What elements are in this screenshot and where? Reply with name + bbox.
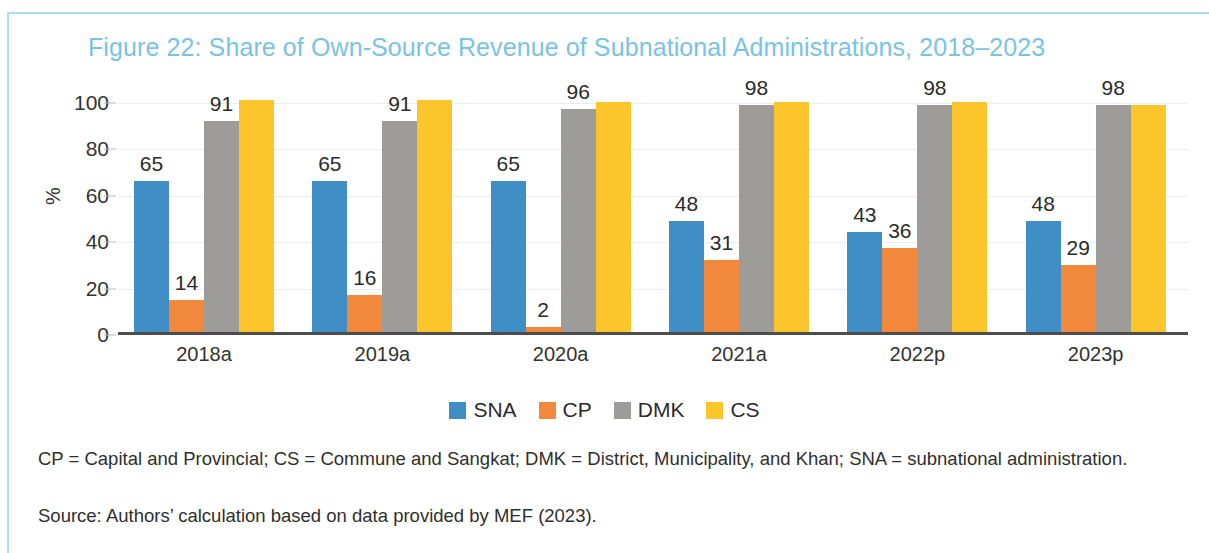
bar-group: 482998: [1026, 100, 1166, 332]
bar-cs-2022p: [952, 102, 987, 332]
bar-sna-2022p: 43: [847, 232, 882, 332]
x-axis-tick-label: 2018a: [114, 343, 294, 366]
bar-value-label: 2: [537, 298, 549, 322]
bar-dmk-2022p: 98: [917, 105, 952, 332]
bar-cp-2023p: 29: [1061, 265, 1096, 332]
y-axis-tick-label: 0: [49, 323, 109, 347]
bar-dmk-2018a: 91: [204, 121, 239, 332]
y-axis-tick-label: 40: [49, 230, 109, 254]
bar-value-label: 96: [566, 80, 589, 104]
figure-title: Figure 22: Share of Own-Source Revenue o…: [88, 33, 1045, 62]
bar-cp-2019a: 16: [347, 295, 382, 332]
y-axis-tick-label: 100: [49, 91, 109, 115]
bar-value-label: 43: [853, 203, 876, 227]
bar-chart: 0204060801006514912018a6516912019a652962…: [118, 100, 1188, 335]
bar-cp-2022p: 36: [882, 248, 917, 332]
y-axis-tick-mark: [104, 288, 116, 289]
bar-value-label: 91: [210, 92, 233, 116]
legend-label: CS: [730, 398, 759, 422]
bar-cs-2018a: [239, 100, 274, 332]
x-axis-line: [118, 332, 1188, 335]
legend-label: DMK: [638, 398, 685, 422]
y-axis-tick-mark: [104, 335, 116, 336]
bar-value-label: 65: [318, 152, 341, 176]
bar-cs-2021a: [774, 102, 809, 332]
legend-item-cs[interactable]: CS: [706, 398, 759, 422]
bar-value-label: 36: [888, 219, 911, 243]
legend-item-sna[interactable]: SNA: [449, 398, 516, 422]
bar-value-label: 98: [745, 76, 768, 100]
bar-cp-2020a: 2: [526, 327, 561, 332]
bar-value-label: 65: [496, 152, 519, 176]
y-axis-tick-mark: [104, 103, 116, 104]
bar-cs-2023p: [1131, 105, 1166, 332]
bar-value-label: 98: [1101, 76, 1124, 100]
bar-group: 651491: [134, 100, 274, 332]
bar-sna-2020a: 65: [491, 181, 526, 332]
y-axis-tick-label: 80: [49, 137, 109, 161]
bar-value-label: 16: [353, 266, 376, 290]
bar-dmk-2019a: 91: [382, 121, 417, 332]
legend-swatch-dmk: [614, 402, 631, 419]
bar-sna-2021a: 48: [669, 221, 704, 332]
legend-item-cp[interactable]: CP: [539, 398, 592, 422]
bar-value-label: 14: [175, 271, 198, 295]
bar-value-label: 48: [675, 192, 698, 216]
bar-cs-2020a: [596, 102, 631, 332]
y-axis-tick-mark: [104, 242, 116, 243]
y-axis-label: %: [42, 187, 65, 205]
x-axis-tick-label: 2023p: [1006, 343, 1186, 366]
plot-area: 0204060801006514912018a6516912019a652962…: [118, 100, 1188, 335]
chart-legend: SNACPDMKCS: [0, 398, 1209, 422]
legend-label: SNA: [473, 398, 516, 422]
y-axis-tick-mark: [104, 149, 116, 150]
bar-cp-2018a: 14: [169, 300, 204, 332]
bar-dmk-2020a: 96: [561, 109, 596, 332]
bar-dmk-2023p: 98: [1096, 105, 1131, 332]
bar-cs-2019a: [417, 100, 452, 332]
x-axis-tick-label: 2021a: [649, 343, 829, 366]
bar-value-label: 98: [923, 76, 946, 100]
bar-group: 651691: [312, 100, 452, 332]
bar-sna-2018a: 65: [134, 181, 169, 332]
bar-value-label: 29: [1066, 236, 1089, 260]
x-axis-tick-label: 2022p: [827, 343, 1007, 366]
legend-swatch-cs: [706, 402, 723, 419]
bar-value-label: 48: [1031, 192, 1054, 216]
y-axis-tick-label: 20: [49, 277, 109, 301]
figure-source: Source: Authors’ calculation based on da…: [38, 505, 597, 527]
y-axis-tick-mark: [104, 195, 116, 196]
bar-value-label: 31: [710, 231, 733, 255]
bar-group: 65296: [491, 100, 631, 332]
bar-group: 483198: [669, 100, 809, 332]
x-axis-tick-label: 2019a: [292, 343, 472, 366]
legend-swatch-cp: [539, 402, 556, 419]
bar-group: 433698: [847, 100, 987, 332]
bar-value-label: 65: [140, 152, 163, 176]
bar-sna-2023p: 48: [1026, 221, 1061, 332]
bar-value-label: 91: [388, 92, 411, 116]
x-axis-tick-label: 2020a: [471, 343, 651, 366]
legend-item-dmk[interactable]: DMK: [614, 398, 685, 422]
bar-sna-2019a: 65: [312, 181, 347, 332]
legend-swatch-sna: [449, 402, 466, 419]
bar-cp-2021a: 31: [704, 260, 739, 332]
figure-notes: CP = Capital and Provincial; CS = Commun…: [38, 446, 1168, 473]
bar-dmk-2021a: 98: [739, 105, 774, 332]
legend-label: CP: [563, 398, 592, 422]
